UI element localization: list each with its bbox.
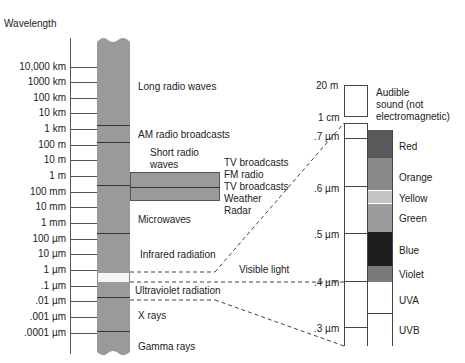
label-radar: Radar [224, 205, 251, 216]
label-microwaves: Microwaves [138, 214, 191, 225]
label-long-radio: Long radio waves [138, 81, 216, 92]
label-short-radio-2: waves [150, 159, 178, 170]
uv-label-uvb: UVB [399, 325, 420, 336]
swatch-yellow [368, 191, 392, 203]
divider-uv-xray [97, 297, 130, 298]
detail-tick-label: .7 µm [314, 131, 339, 142]
detail-tick-label: .3 µm [314, 323, 339, 334]
color-label-yellow: Yellow [399, 193, 428, 204]
label-weather: Weather [224, 193, 262, 204]
divider-tv-fm [130, 187, 220, 188]
detail-tick-label: .5 µm [314, 229, 339, 240]
divider-uva-uvb [368, 313, 392, 314]
swatch-violet [368, 266, 392, 282]
label-tv1: TV broadcasts [224, 157, 288, 168]
audible-bottom-label: 1 cm [318, 112, 340, 123]
detail-tick-label: .6 µm [314, 183, 339, 194]
divider-short-micro [97, 185, 130, 186]
label-xrays: X rays [138, 310, 166, 321]
detail-tick-06 [344, 186, 368, 187]
swatch-blue [368, 232, 392, 266]
detail-tick-03 [344, 327, 368, 328]
color-label-violet: Violet [399, 269, 424, 280]
divider-am-short [97, 142, 130, 143]
divider-micro-ir [97, 233, 130, 234]
divider-long-am [97, 125, 130, 126]
audible-text-1: Audible [376, 87, 409, 98]
label-fm: FM radio [224, 169, 263, 180]
color-label-green: Green [399, 213, 427, 224]
uv-label-uva: UVA [399, 295, 419, 306]
detail-scale-column [344, 123, 368, 346]
detail-tick-04 [344, 281, 368, 282]
label-visible: Visible light [239, 264, 289, 275]
label-am-radio: AM radio broadcasts [138, 129, 230, 140]
detail-tick-07 [344, 138, 368, 139]
detail-tick-label: .4 µm [314, 277, 339, 288]
swatch-orange [368, 158, 392, 190]
audible-text-3: electromagnetic) [376, 111, 450, 122]
label-gamma: Gamma rays [138, 341, 195, 352]
swatch-red [368, 130, 392, 158]
color-label-orange: Orange [399, 172, 432, 183]
divider-xray-gamma [97, 331, 130, 332]
color-label-red: Red [399, 141, 417, 152]
label-short-radio: Short radio [150, 147, 199, 158]
audible-top-label: 20 m [316, 80, 338, 91]
label-tv2: TV broadcasts [224, 181, 288, 192]
label-infrared: Infrared radiation [140, 249, 216, 260]
label-ultraviolet: Ultraviolet radiation [135, 285, 221, 296]
audible-text-2: sound (not [376, 99, 423, 110]
color-label-blue: Blue [399, 245, 419, 256]
audible-sound-box [344, 85, 368, 117]
detail-tick-05 [344, 233, 368, 234]
swatch-green [368, 204, 392, 232]
